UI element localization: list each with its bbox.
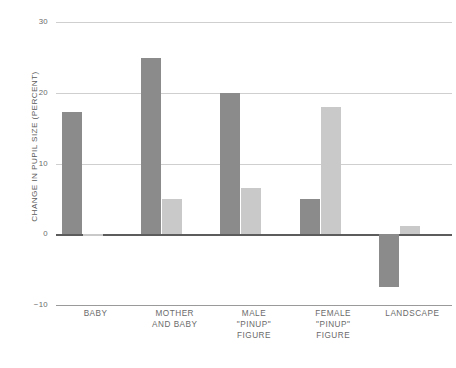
category-label-line: FIGURE (294, 330, 373, 341)
bar (162, 199, 182, 234)
bar-group (135, 22, 214, 305)
category-label-line: FEMALE (294, 308, 373, 319)
category-label: MOTHERAND BABY (135, 308, 214, 330)
y-tick-label: 10 (10, 159, 48, 168)
category-label-line: FIGURE (214, 330, 293, 341)
y-axis-title: CHANGE IN PUPIL SIZE (PERCENT) (30, 52, 39, 242)
category-label: LANDSCAPE (373, 308, 452, 319)
category-label-line: MALE (214, 308, 293, 319)
plot-area: 3020100−10 (56, 22, 452, 305)
category-label-line: AND BABY (135, 319, 214, 330)
category-label: FEMALE"PINUP"FIGURE (294, 308, 373, 342)
bar-series-container (56, 22, 452, 305)
category-label-line: "PINUP" (294, 319, 373, 330)
bar (400, 226, 420, 234)
bar (379, 234, 399, 287)
bar (62, 112, 82, 234)
bar (83, 234, 103, 235)
bar (220, 93, 240, 235)
bar (141, 58, 161, 234)
bar-group (214, 22, 293, 305)
bar-group (373, 22, 452, 305)
category-label-line: LANDSCAPE (373, 308, 452, 319)
bar (300, 199, 320, 234)
category-label-line: "PINUP" (214, 319, 293, 330)
bar (241, 188, 261, 234)
bar-group (56, 22, 135, 305)
category-label: BABY (56, 308, 135, 319)
category-axis-labels: BABYMOTHERAND BABYMALE"PINUP"FIGUREFEMAL… (56, 308, 452, 364)
category-label-line: MOTHER (135, 308, 214, 319)
pupil-size-bar-chart: CHANGE IN PUPIL SIZE (PERCENT) 3020100−1… (0, 0, 456, 368)
category-label-line: BABY (56, 308, 135, 319)
y-tick-label: 30 (10, 17, 48, 26)
y-tick-label: −10 (10, 300, 48, 309)
category-label: MALE"PINUP"FIGURE (214, 308, 293, 342)
gridline--10 (56, 305, 452, 306)
bar-group (294, 22, 373, 305)
y-tick-label: 0 (10, 229, 48, 238)
y-tick-label: 20 (10, 88, 48, 97)
bar (321, 107, 341, 234)
